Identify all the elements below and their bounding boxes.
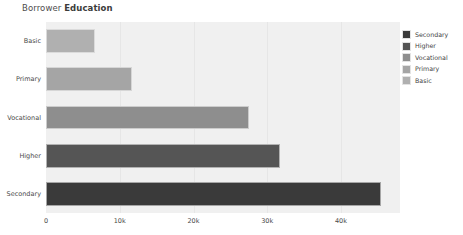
legend-item-primary[interactable]: Primary [402, 64, 462, 76]
x-axis: 010k20k30k40k [46, 213, 400, 233]
y-axis-label-secondary: Secondary [7, 190, 46, 198]
y-axis: BasicPrimaryVocationalHigherSecondary [0, 22, 46, 213]
x-axis-tick-label: 0 [44, 217, 48, 225]
legend-swatch-icon [402, 76, 411, 85]
legend-swatch-icon [402, 30, 411, 39]
legend-label: Higher [415, 43, 436, 49]
bar-higher[interactable] [46, 144, 280, 168]
legend-item-higher[interactable]: Higher [402, 41, 462, 53]
x-axis-tick-label: 10k [114, 217, 126, 225]
plot-area [46, 22, 400, 213]
legend-label: Primary [415, 66, 439, 72]
chart-title: Borrower Education [22, 3, 113, 13]
legend-swatch-icon [402, 42, 411, 51]
legend-label: Vocational [415, 55, 448, 61]
chart-title-emphasis: Education [64, 3, 112, 13]
y-axis-label-basic: Basic [24, 37, 46, 45]
legend-item-secondary[interactable]: Secondary [402, 29, 462, 41]
bar-basic[interactable] [46, 29, 95, 53]
y-axis-label-vocational: Vocational [7, 114, 46, 122]
y-axis-label-higher: Higher [19, 152, 46, 160]
legend-swatch-icon [402, 53, 411, 62]
y-axis-label-primary: Primary [16, 75, 46, 83]
bar-secondary[interactable] [46, 182, 381, 206]
x-axis-tick-label: 40k [335, 217, 347, 225]
chart-title-prefix: Borrower [22, 3, 61, 13]
legend-label: Secondary [415, 32, 448, 38]
bar-vocational[interactable] [46, 106, 249, 130]
x-axis-tick-label: 30k [261, 217, 273, 225]
x-axis-tick-label: 20k [187, 217, 199, 225]
legend-item-vocational[interactable]: Vocational [402, 52, 462, 64]
bar-primary[interactable] [46, 67, 132, 91]
bars-layer [46, 22, 400, 213]
chart-container: Borrower Education BasicPrimaryVocationa… [0, 0, 463, 235]
legend-swatch-icon [402, 65, 411, 74]
legend-item-basic[interactable]: Basic [402, 75, 462, 87]
legend-label: Basic [415, 78, 432, 84]
chart-legend: SecondaryHigherVocationalPrimaryBasic [402, 29, 462, 87]
